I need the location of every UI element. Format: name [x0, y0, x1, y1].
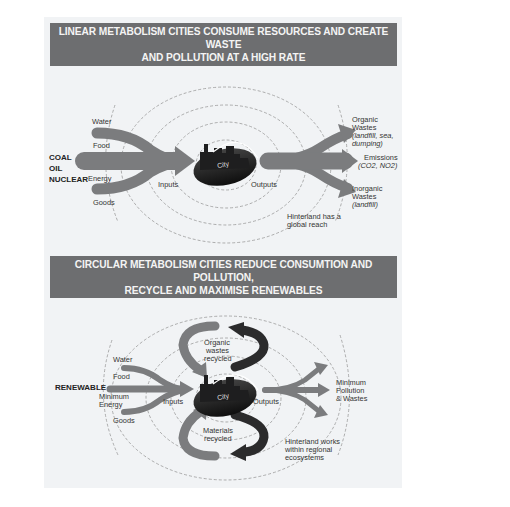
hinterland-label: global reach [287, 221, 327, 230]
input-goods-label: Goods [113, 417, 135, 426]
diagram-graphics [0, 0, 510, 507]
recycle-arrowhead-organic-out [228, 322, 244, 338]
organic-recycled-label: recycled [204, 355, 232, 364]
outputs-label: Outputs [251, 181, 277, 190]
inputs-label: Inputs [158, 181, 178, 190]
input-food-label: Food [93, 142, 110, 151]
output-arrowhead-emissions [342, 149, 358, 173]
outputs-label: Outputs [253, 398, 279, 407]
materials-recycled-label: recycled [204, 435, 232, 444]
hinterland-label: ecosystems [285, 454, 324, 463]
input-goods-label: Goods [93, 199, 115, 208]
output-arrowhead-bottom-mid [318, 383, 330, 397]
input-energy-label: Energy [99, 401, 122, 410]
output-inorganic-detail: (landfill) [352, 201, 378, 210]
input-water-label: Water [92, 118, 111, 127]
source-label: OIL [49, 164, 62, 175]
output-emissions-detail: (CO2, NO2) [358, 162, 397, 171]
recycle-arrowhead-material-out [230, 444, 246, 461]
source-label: NUCLEAR [49, 175, 88, 186]
input-water-label: Water [113, 356, 132, 365]
input-arrowhead-bottom [180, 381, 194, 397]
input-energy-label: Energy [88, 175, 111, 184]
source-label: COAL [49, 153, 72, 164]
input-food-label: Food [113, 373, 130, 382]
output-arrows-top [268, 134, 348, 188]
input-arrowhead-top [175, 146, 195, 176]
minimum-pollution-label: & Wastes [336, 395, 367, 404]
output-organic-detail: dumping) [352, 140, 383, 149]
inputs-label: Inputs [163, 398, 183, 407]
